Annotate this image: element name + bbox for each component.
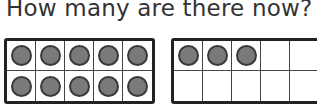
counter-dot-icon [127,45,148,66]
ten-frame-2 [171,38,317,104]
ten-frame-cell [123,71,152,101]
ten-frame-cell [7,71,36,101]
counter-dot-icon [69,45,90,66]
counter-dot-icon [178,45,199,66]
ten-frame-cell [174,71,203,101]
question-text: How many are there now? [6,0,312,21]
ten-frame-cell [94,71,123,101]
ten-frame-cell [36,71,65,101]
ten-frame-cell [290,41,317,71]
counter-dot-icon [69,76,90,97]
counter-dot-icon [40,45,61,66]
ten-frame-cell [65,71,94,101]
counter-dot-icon [98,76,119,97]
ten-frame-cell [7,41,36,71]
ten-frame-cell [36,41,65,71]
ten-frame-cell [123,41,152,71]
counter-dot-icon [11,45,32,66]
counter-dot-icon [207,45,228,66]
ten-frame-cell [232,41,261,71]
ten-frame-cell [261,41,290,71]
ten-frame-cell [65,41,94,71]
counter-dot-icon [127,76,148,97]
ten-frame-cell [203,41,232,71]
counter-dot-icon [236,45,257,66]
ten-frame-cell [203,71,232,101]
ten-frame-cell [94,41,123,71]
ten-frame-cell [174,41,203,71]
ten-frame-cell [232,71,261,101]
ten-frame-1 [4,38,155,104]
counter-dot-icon [11,76,32,97]
counter-dot-icon [40,76,61,97]
ten-frame-cell [261,71,290,101]
ten-frame-cell [290,71,317,101]
counter-dot-icon [98,45,119,66]
